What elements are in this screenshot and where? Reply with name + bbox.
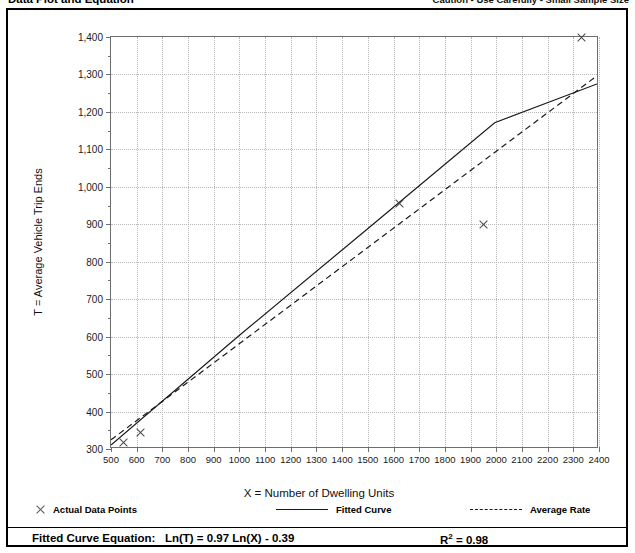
x-axis-tick-label: 900 — [206, 454, 222, 465]
gridline-vertical — [548, 37, 549, 447]
gridline-vertical — [368, 37, 369, 447]
y-axis-tick-label: 700 — [86, 294, 103, 305]
gridline-vertical — [239, 37, 240, 447]
gridline-vertical — [599, 37, 600, 447]
data-point-marker — [478, 219, 489, 230]
legend: Actual Data Points Fitted Curve Average … — [8, 504, 626, 526]
data-point-marker — [117, 437, 128, 448]
x-axis-title: X = Number of Dwelling Units — [8, 487, 630, 499]
gridline-vertical — [445, 37, 446, 447]
equation-value: Ln(T) = 0.97 Ln(X) - 0.39 — [165, 532, 294, 544]
gridline-vertical — [419, 37, 420, 447]
y-axis-minor-tick — [108, 131, 111, 132]
legend-item-average-rate: Average Rate — [470, 504, 590, 515]
x-axis-tick-label: 2300 — [563, 454, 584, 465]
y-axis-tick-label: 1,100 — [78, 144, 103, 155]
gridline-vertical — [573, 37, 574, 447]
gridline-horizontal — [111, 374, 597, 375]
x-axis-tick — [342, 447, 343, 452]
x-axis-tick-label: 1800 — [434, 454, 455, 465]
x-axis-tick — [162, 447, 163, 452]
gridline-horizontal — [111, 187, 597, 188]
gridline-vertical — [496, 37, 497, 447]
page-title: Data Plot and Equation — [8, 0, 134, 6]
x-axis-tick-label: 2400 — [588, 454, 609, 465]
x-axis-tick-label: 700 — [154, 454, 170, 465]
dashed-line-icon — [470, 509, 522, 510]
y-axis-tick-label: 1,200 — [78, 106, 103, 117]
y-axis-tick — [106, 149, 111, 150]
x-axis-tick-label: 1300 — [306, 454, 327, 465]
fitted-curve-equation: Fitted Curve Equation: Ln(T) = 0.97 Ln(X… — [32, 532, 294, 544]
legend-label-fitted-curve: Fitted Curve — [336, 504, 391, 515]
data-point-marker — [134, 427, 145, 438]
gridline-horizontal — [111, 149, 597, 150]
y-axis-tick — [106, 262, 111, 263]
x-axis-tick — [111, 447, 112, 452]
y-axis-tick — [106, 112, 111, 113]
x-axis-tick-label: 600 — [129, 454, 145, 465]
y-axis-tick-label: 600 — [86, 331, 103, 342]
y-axis-tick-label: 1,400 — [78, 32, 103, 43]
solid-line-icon — [276, 509, 328, 510]
plot-area: T = Average Vehicle Trip Ends 5006007008… — [8, 10, 630, 470]
x-axis-tick — [471, 447, 472, 452]
gridline-horizontal — [111, 337, 597, 338]
x-axis-tick-label: 2100 — [511, 454, 532, 465]
x-axis-tick — [214, 447, 215, 452]
y-axis-tick — [106, 37, 111, 38]
y-axis-minor-tick — [108, 243, 111, 244]
header-strip: Data Plot and Equation Caution - Use Car… — [0, 0, 635, 7]
y-axis-tick — [106, 449, 111, 450]
x-axis-tick-label: 1700 — [409, 454, 430, 465]
x-axis-tick — [496, 447, 497, 452]
gridline-vertical — [394, 37, 395, 447]
y-axis-tick — [106, 412, 111, 413]
x-axis-tick-label: 800 — [180, 454, 196, 465]
x-axis-tick — [419, 447, 420, 452]
x-axis-tick — [316, 447, 317, 452]
gridline-vertical — [188, 37, 189, 447]
y-axis-title: T = Average Vehicle Trip Ends — [32, 168, 44, 315]
y-axis-tick — [106, 337, 111, 338]
y-axis-minor-tick — [108, 430, 111, 431]
x-marker-icon — [34, 504, 45, 515]
y-axis-tick — [106, 224, 111, 225]
r-squared-exponent: 2 — [448, 532, 452, 541]
plot-frame: 5006007008009001000110012001300140015001… — [110, 36, 598, 448]
gridline-vertical — [522, 37, 523, 447]
x-axis-tick-label: 1500 — [357, 454, 378, 465]
gridline-vertical — [291, 37, 292, 447]
x-axis-tick — [548, 447, 549, 452]
x-axis-tick — [239, 447, 240, 452]
y-axis-minor-tick — [108, 355, 111, 356]
legend-label-actual-data-points: Actual Data Points — [53, 504, 137, 515]
x-axis-tick — [291, 447, 292, 452]
x-axis-tick — [445, 447, 446, 452]
y-axis-minor-tick — [108, 56, 111, 57]
y-axis-tick-label: 500 — [86, 369, 103, 380]
x-axis-tick-label: 1200 — [280, 454, 301, 465]
y-axis-minor-tick — [108, 93, 111, 94]
x-axis-tick-label: 1400 — [332, 454, 353, 465]
x-axis-tick-label: 1100 — [255, 454, 275, 465]
gridlines — [111, 37, 597, 447]
r-squared-value: = 0.98 — [456, 534, 488, 546]
gridline-horizontal — [111, 262, 597, 263]
legend-item-actual-data-points: Actual Data Points — [34, 504, 137, 515]
gridline-horizontal — [111, 299, 597, 300]
footer-divider — [8, 527, 626, 528]
curve-layer — [111, 37, 597, 447]
y-axis-tick — [106, 187, 111, 188]
x-axis-tick — [188, 447, 189, 452]
y-axis-minor-tick — [108, 168, 111, 169]
y-axis-tick-label: 1,300 — [78, 69, 103, 80]
x-axis-tick — [522, 447, 523, 452]
x-axis-tick — [394, 447, 395, 452]
x-axis-tick-label: 1000 — [229, 454, 250, 465]
x-axis-tick — [573, 447, 574, 452]
y-axis-minor-tick — [108, 318, 111, 319]
gridline-vertical — [342, 37, 343, 447]
data-point-markers — [111, 37, 597, 447]
gridline-horizontal — [111, 74, 597, 75]
